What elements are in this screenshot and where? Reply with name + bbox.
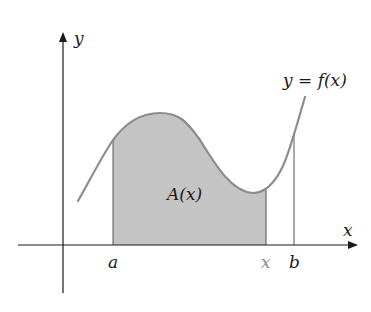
tick-label-b: b bbox=[289, 252, 300, 272]
tick-label-a: a bbox=[108, 252, 118, 272]
area-function-diagram: y x y = f(x) A(x) a x b bbox=[0, 0, 371, 312]
x-axis-label: x bbox=[343, 220, 353, 240]
y-axis-label: y bbox=[73, 28, 84, 48]
tick-label-x: x bbox=[261, 252, 271, 272]
shaded-area-region bbox=[113, 113, 266, 245]
curve-label: y = f(x) bbox=[282, 70, 347, 90]
area-label: A(x) bbox=[165, 184, 202, 204]
